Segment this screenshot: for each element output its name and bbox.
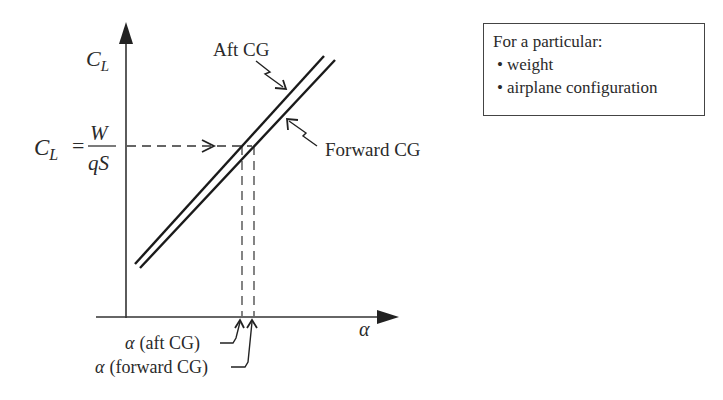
x-axis-label: α [359,318,370,340]
forward-cg-annotation: Forward CG [287,119,421,160]
svg-text:qS: qS [88,151,110,175]
y-axis-arrow-icon [119,22,133,44]
condition-item-weight: •weight [493,53,704,76]
alpha-forward-label: α(forward CG) [95,357,208,378]
svg-text:W: W [90,121,110,145]
alpha-aft-label: α(aft CG) [125,333,200,354]
y-axis-label: CL [86,46,109,74]
y-axis [119,22,133,318]
squiggle-arrow-icon [287,119,298,130]
forward-cg-lift-line [140,60,335,268]
conditions-box: For a particular: •weight •airplane conf… [483,23,705,116]
lift-coefficient-equation: CL = W qS [34,121,116,175]
aft-cg-lift-line [135,56,324,264]
alpha-dashed-lines [242,146,254,316]
aft-cg-label: Aft CG [213,39,270,60]
x-axis-arrow-icon [377,310,399,324]
conditions-title: For a particular: [493,30,704,53]
svg-text:CL: CL [34,135,58,163]
alpha-aft-annotation: α(aft CG) [125,320,244,354]
aft-cg-annotation: Aft CG [213,39,286,89]
condition-item-configuration: •airplane configuration [493,76,704,99]
x-axis [96,310,399,324]
cl-dashed-line [127,140,252,152]
svg-text:=: = [72,133,84,158]
forward-cg-label: Forward CG [325,139,421,160]
